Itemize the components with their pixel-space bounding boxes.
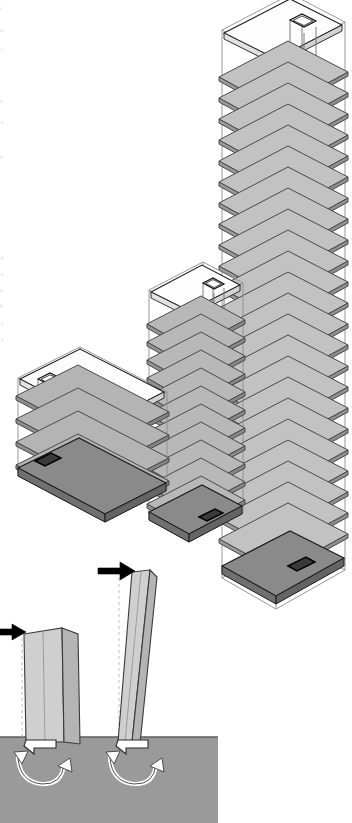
svg-text:d: d [0, 255, 3, 261]
svg-text:o: o [0, 27, 3, 33]
svg-text:g: g [0, 153, 3, 159]
deflected-column-short [24, 628, 80, 744]
svg-text:h: h [0, 303, 3, 309]
svg-text:e: e [1, 271, 4, 277]
high-tower [219, 0, 348, 609]
svg-text:e: e [1, 119, 4, 125]
high-tower-floor-plates [219, 41, 348, 576]
diagram-canvas: c o t a e g d e a h t e [0, 0, 352, 823]
svg-text:a: a [0, 287, 3, 293]
svg-text:c: c [0, 5, 3, 11]
svg-text:e: e [1, 336, 4, 342]
svg-text:a: a [0, 98, 3, 104]
architectural-diagram-svg: c o t a e g d e a h t e [0, 0, 352, 823]
